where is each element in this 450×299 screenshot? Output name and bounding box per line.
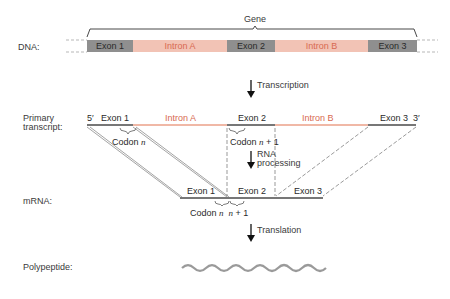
codon-n-brace <box>120 128 136 134</box>
gene-bracket <box>87 26 417 37</box>
mrna-exon1-label: Exon 1 <box>187 186 215 196</box>
mrna-exon3-label: Exon 3 <box>294 186 322 196</box>
primary-exon2-label: Exon 2 <box>238 113 266 123</box>
primary-introna-label: Intron A <box>165 113 196 123</box>
dna-row-label: DNA: <box>18 42 40 52</box>
rna-processing-arrow-icon <box>247 151 255 169</box>
mrna-codon-var: n <box>219 208 224 218</box>
codon-n1-label: Codon n + 1 <box>230 137 279 147</box>
mrna-next-suffix: + 1 <box>236 208 249 218</box>
dna-exon-3: Exon 3 <box>368 40 417 52</box>
transcription-arrow-icon <box>247 80 255 98</box>
codon-n-label: Codon n <box>112 137 146 147</box>
dna-exon-2: Exon 2 <box>227 40 275 52</box>
mrna-exon2-label: Exon 2 <box>238 186 266 196</box>
primary-intronb-label: Intron B <box>302 113 334 123</box>
primary-exon1-label: Exon 1 <box>101 113 129 123</box>
mrna-codon-label: Codon n n + 1 <box>190 208 248 218</box>
mrna-row-label: mRNA: <box>23 196 52 206</box>
translation-label: Translation <box>257 225 301 235</box>
primary-exon3-label: Exon 3 <box>380 113 408 123</box>
dna-intron-b: Intron B <box>275 40 368 52</box>
codon-n1-prefix: Codon <box>230 137 257 147</box>
five-prime-label: 5′ <box>87 113 94 123</box>
codon-n1-var: n <box>259 137 264 147</box>
codon-n1-suffix: + 1 <box>266 137 279 147</box>
codon-n-var: n <box>141 137 146 147</box>
codon-n1-brace <box>229 128 245 134</box>
codon-n-prefix: Codon <box>112 137 139 147</box>
dna-intron-a: Intron A <box>133 40 227 52</box>
three-prime-label: 3′ <box>413 113 420 123</box>
mrna-codon-prefix: Codon <box>190 208 217 218</box>
dna-exon-1: Exon 1 <box>87 40 133 52</box>
mrna-codon-n-brace <box>215 201 229 206</box>
mrna-codon-n1-brace <box>230 201 244 206</box>
rna-processing-label-2: processing <box>257 158 301 168</box>
polypeptide-row-label: Polypeptide: <box>23 262 73 272</box>
primary-row-label-2: transcript: <box>23 122 63 132</box>
mrna-next-var: n <box>229 208 234 218</box>
polypeptide-wave <box>182 265 326 271</box>
translation-arrow-icon <box>247 224 255 242</box>
transcription-label: Transcription <box>257 80 309 90</box>
gene-label: Gene <box>244 14 266 24</box>
